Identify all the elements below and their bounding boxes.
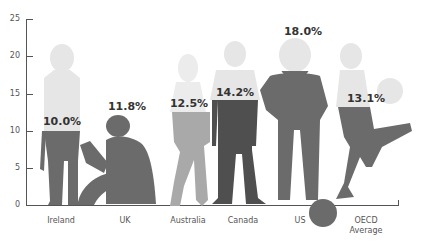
value-label-oecd: 13.1% bbox=[347, 92, 385, 105]
category-label-ireland: Ireland bbox=[47, 216, 75, 226]
figure-canada bbox=[210, 41, 266, 204]
category-label-australia: Australia bbox=[170, 216, 205, 226]
value-label-canada: 14.2% bbox=[216, 86, 254, 99]
value-label-ireland: 10.0% bbox=[43, 115, 81, 128]
category-label-oecd-line2: Average bbox=[350, 226, 383, 236]
figure-australia bbox=[170, 54, 210, 206]
value-label-uk: 11.8% bbox=[108, 100, 146, 113]
value-label-australia: 12.5% bbox=[170, 97, 208, 110]
figure-us bbox=[260, 38, 337, 227]
category-label-uk: UK bbox=[119, 216, 130, 226]
value-label-us: 18.0% bbox=[284, 25, 322, 38]
figure-uk bbox=[78, 115, 156, 205]
category-label-canada: Canada bbox=[228, 216, 258, 226]
category-label-oecd-line1: OECD bbox=[350, 216, 383, 226]
category-label-us: US bbox=[295, 216, 306, 226]
figure-oecd bbox=[336, 43, 412, 199]
category-label-oecd: OECD Average bbox=[350, 216, 383, 236]
